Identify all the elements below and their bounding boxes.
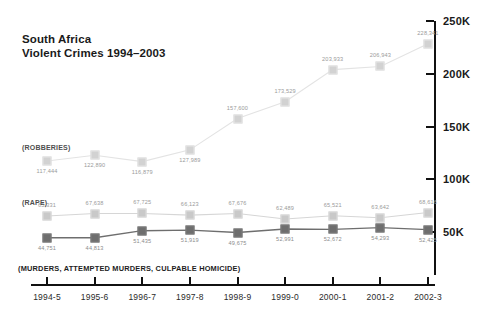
data-point-label: 173,529	[274, 88, 295, 94]
data-point-marker	[185, 211, 194, 220]
data-point-marker	[424, 208, 433, 217]
data-point-label: 116,879	[132, 169, 153, 175]
data-point-marker	[281, 97, 290, 106]
data-point-marker	[376, 213, 385, 222]
x-axis-tick	[237, 277, 239, 285]
series-caption-rape: (RAPE)	[22, 199, 47, 206]
series-lines	[0, 0, 493, 328]
data-point-label: 203,933	[322, 56, 343, 62]
data-point-marker	[281, 215, 290, 224]
data-point-marker	[138, 226, 147, 235]
data-point-label: 52,672	[324, 236, 342, 242]
data-point-label: 67,638	[86, 200, 104, 206]
series-line	[47, 44, 428, 162]
data-point-label: 157,600	[227, 105, 248, 111]
data-point-label: 127,989	[179, 157, 200, 163]
data-point-marker	[43, 233, 52, 242]
series-caption-robberies: (ROBBERIES)	[22, 144, 70, 151]
x-axis-label: 2000-1	[319, 292, 347, 302]
data-point-label: 52,425	[419, 237, 437, 243]
data-point-marker	[328, 211, 337, 220]
x-axis-tick	[284, 277, 286, 285]
data-point-label: 44,813	[86, 245, 104, 251]
x-axis-tick	[94, 277, 96, 285]
data-point-label: 67,725	[133, 199, 151, 205]
data-point-marker	[138, 209, 147, 218]
x-axis-tick	[141, 277, 143, 285]
data-point-marker	[328, 225, 337, 234]
data-point-label: 49,675	[228, 240, 246, 246]
data-point-marker	[233, 209, 242, 218]
x-axis-label: 1997-8	[176, 292, 204, 302]
data-point-label: 122,890	[84, 162, 105, 168]
data-point-label: 68,616	[419, 199, 437, 205]
data-point-label: 44,751	[38, 245, 56, 251]
data-point-label: 206,943	[370, 52, 391, 58]
data-point-marker	[328, 65, 337, 74]
data-point-marker	[424, 39, 433, 48]
data-point-marker	[281, 225, 290, 234]
x-axis-label: 2001-2	[367, 292, 395, 302]
y-axis-tick	[426, 20, 434, 22]
data-point-label: 51,435	[133, 238, 151, 244]
x-axis-tick	[427, 277, 429, 285]
x-axis-line	[31, 284, 435, 286]
data-point-label: 66,123	[181, 201, 199, 207]
data-point-marker	[233, 114, 242, 123]
data-point-marker	[43, 156, 52, 165]
data-point-label: 62,489	[276, 205, 294, 211]
data-point-marker	[43, 212, 52, 221]
y-axis-tick	[426, 126, 434, 128]
data-point-label: 228,341	[417, 30, 438, 36]
data-point-marker	[90, 209, 99, 218]
y-axis-label: 100K	[443, 173, 470, 185]
x-axis-label: 1995-6	[81, 292, 109, 302]
chart-container: South Africa Violent Crimes 1994–2003 50…	[0, 0, 493, 328]
x-axis-tick	[46, 277, 48, 285]
x-axis-label: 1999-0	[271, 292, 299, 302]
y-axis-tick	[426, 73, 434, 75]
data-point-marker	[90, 233, 99, 242]
data-point-marker	[376, 62, 385, 71]
x-axis-label: 1994-5	[33, 292, 61, 302]
data-point-label: 67,676	[228, 200, 246, 206]
data-point-label: 52,991	[276, 236, 294, 242]
x-axis-label: 1996-7	[128, 292, 156, 302]
x-axis-label: 1998-9	[224, 292, 252, 302]
data-point-marker	[233, 228, 242, 237]
data-point-label: 117,444	[37, 168, 58, 174]
y-axis-label: 250K	[443, 15, 470, 27]
data-point-label: 51,919	[181, 237, 199, 243]
data-point-label: 63,642	[371, 204, 389, 210]
y-axis-label: 200K	[443, 68, 470, 80]
data-point-marker	[138, 157, 147, 166]
data-point-marker	[90, 151, 99, 160]
y-axis-tick	[426, 178, 434, 180]
x-axis-tick	[332, 277, 334, 285]
data-point-label: 54,293	[371, 235, 389, 241]
x-axis-tick	[379, 277, 381, 285]
x-axis-label: 2002-3	[414, 292, 442, 302]
data-point-marker	[424, 225, 433, 234]
data-point-marker	[376, 223, 385, 232]
x-axis-tick	[189, 277, 191, 285]
y-axis-label: 50K	[443, 226, 464, 238]
data-point-marker	[185, 145, 194, 154]
y-axis-label: 150K	[443, 121, 470, 133]
data-point-marker	[185, 226, 194, 235]
data-point-label: 65,521	[324, 202, 342, 208]
series-caption-murders: (MURDERS, ATTEMPTED MURDERS, CULPABLE HO…	[18, 264, 240, 273]
plot-area	[0, 0, 493, 328]
